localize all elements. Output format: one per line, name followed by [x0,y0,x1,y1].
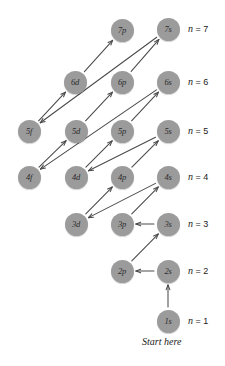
orbital-node-5s[interactable]: 5s [157,120,180,143]
arrow-5d-to-6p [86,92,113,121]
arrow-6p-to-7s [131,40,159,72]
shell-value-n4: = 4 [196,172,209,182]
orbital-label-5d: 5d [72,127,80,136]
shell-label-n4: n = 4 [188,171,208,182]
orbital-node-6p[interactable]: 6p [111,71,134,94]
arrow-2s-to-2p [136,269,154,273]
orbital-label-5p: 5p [118,127,126,136]
orbital-node-4s[interactable]: 4s [157,166,180,189]
orbital-node-3s[interactable]: 3s [157,213,180,236]
shell-value-n3: = 3 [196,219,209,229]
arrow-3p-to-4s [132,187,158,214]
arrow-5f-to-6d [39,92,66,121]
orbital-label-5f: 5f [26,127,32,136]
orbital-node-3d[interactable]: 3d [65,213,88,236]
shell-symbol-n5: n [188,125,193,136]
shell-label-n3: n = 3 [188,218,208,229]
orbital-label-2p: 2p [118,267,126,276]
orbital-node-4d[interactable]: 4d [65,166,88,189]
arrow-3d-to-4p [86,187,112,214]
orbital-label-3p: 3p [118,220,126,229]
start-here-note: Start here [142,336,181,347]
arrow-4p-to-5s [132,141,158,167]
shell-label-n1: n = 1 [188,315,208,326]
shell-value-n5: = 5 [196,126,209,136]
orbital-node-7p[interactable]: 7p [111,19,134,42]
shell-symbol-n7: n [188,23,193,34]
orbital-node-6d[interactable]: 6d [64,71,87,94]
shell-label-n7: n = 7 [188,23,208,34]
aufbau-diagram: 7p7s6d6p6s5f5d5p5s4f4d4p4s3d3p3s2p2s1s n… [0,0,225,366]
orbital-node-2s[interactable]: 2s [157,260,180,283]
arrow-6d-to-7p [84,40,112,71]
shell-symbol-n4: n [188,171,193,182]
arrow-1s-to-2s [166,285,170,307]
orbital-label-5s: 5s [164,127,171,136]
orbital-node-5d[interactable]: 5d [65,120,88,143]
arrow-7s-to-5f [40,37,156,122]
orbital-node-6s[interactable]: 6s [157,71,180,94]
orbital-label-4s: 4s [164,173,171,182]
shell-label-n5: n = 5 [188,125,208,136]
arrow-4d-to-5p [86,141,112,167]
orbital-label-2s: 2s [164,267,171,276]
orbital-label-6s: 6s [164,78,171,87]
shell-symbol-n2: n [188,265,193,276]
orbital-node-5f[interactable]: 5f [18,120,41,143]
orbital-node-7s[interactable]: 7s [157,18,180,41]
shell-value-n1: = 1 [196,316,209,326]
orbital-node-4f[interactable]: 4f [18,166,41,189]
orbital-node-5p[interactable]: 5p [111,120,134,143]
shell-value-n6: = 6 [196,77,209,87]
arrow-5p-to-6s [132,92,159,121]
orbital-label-3s: 3s [164,220,171,229]
orbital-label-4p: 4p [118,173,126,182]
orbital-label-4d: 4d [72,173,80,182]
arrow-3s-to-3p [136,222,154,226]
orbital-label-6d: 6d [71,78,79,87]
orbital-label-6p: 6p [118,78,126,87]
orbital-label-7s: 7s [164,25,171,34]
shell-label-n2: n = 2 [188,265,208,276]
orbital-label-1s: 1s [164,317,171,326]
orbital-node-1s[interactable]: 1s [157,310,180,333]
orbital-label-4f: 4f [26,173,32,182]
orbital-label-3d: 3d [72,220,80,229]
arrow-6s-to-4f [41,90,157,169]
orbital-node-4p[interactable]: 4p [111,166,134,189]
arrow-2p-to-3s [132,234,158,261]
shell-symbol-n3: n [188,218,193,229]
shell-value-n2: = 2 [196,266,209,276]
shell-symbol-n1: n [188,315,193,326]
orbital-node-2p[interactable]: 2p [111,260,134,283]
orbital-node-3p[interactable]: 3p [111,213,134,236]
shell-symbol-n6: n [188,76,193,87]
orbital-label-7p: 7p [118,26,126,35]
shell-value-n7: = 7 [196,24,209,34]
shell-label-n6: n = 6 [188,76,208,87]
